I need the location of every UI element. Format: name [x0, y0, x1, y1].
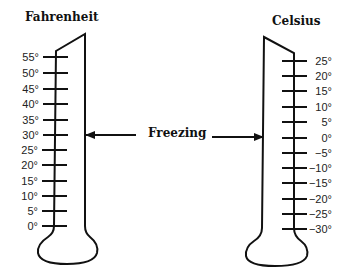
- tick-label: −25°: [309, 208, 332, 220]
- tick-label: 35°: [22, 114, 39, 126]
- tick-label: 50°: [22, 67, 39, 79]
- tick-label: 10°: [315, 101, 332, 113]
- tick-label: 40°: [22, 98, 39, 110]
- tick-label: 5°: [321, 116, 332, 128]
- tick-label: 25°: [21, 144, 38, 156]
- tick-label: −10°: [309, 162, 332, 174]
- tick-label: 0°: [27, 220, 38, 232]
- tick-label: 20°: [315, 70, 332, 82]
- tick-label: −30°: [309, 223, 332, 235]
- celsius-thermometer: [246, 37, 308, 266]
- celsius-tick-labels: 25° 20° 15° 10° 5° 0° −5° −10° −15° −20°…: [309, 55, 332, 235]
- tick-label: 25°: [315, 55, 332, 67]
- tick-label: 15°: [21, 175, 38, 187]
- tick-label: 45°: [22, 83, 39, 95]
- tick-label: 5°: [27, 205, 38, 217]
- tick-label: 15°: [315, 85, 332, 97]
- tick-label: 30°: [22, 129, 39, 141]
- tick-label: 20°: [21, 159, 38, 171]
- tick-label: −15°: [309, 177, 332, 189]
- fahrenheit-tick-labels: 55° 50° 45° 40° 35° 30° 25° 20° 15° 10° …: [21, 51, 39, 232]
- tick-label: 0°: [321, 132, 332, 144]
- tick-label: −20°: [309, 193, 332, 205]
- tick-label: 10°: [21, 190, 38, 202]
- tick-label: −5°: [315, 147, 332, 159]
- thermometer-diagram: 55° 50° 45° 40° 35° 30° 25° 20° 15° 10° …: [0, 0, 351, 280]
- tick-label: 55°: [22, 51, 39, 63]
